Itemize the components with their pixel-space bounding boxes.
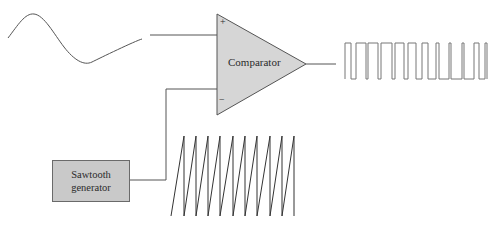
sawtooth-wave: [171, 136, 294, 216]
plus-input-label: +: [220, 16, 226, 27]
pwm-square-wave-output: [345, 43, 487, 79]
sine-wave-input-smooth: [8, 14, 142, 63]
sawtooth-generator-label-line2: generator: [71, 181, 111, 194]
sawtooth-generator-block: Sawtooth generator: [52, 160, 130, 202]
comparator-label: Comparator: [228, 56, 281, 68]
minus-input-label: −: [219, 94, 225, 105]
sawtooth-generator-label-line1: Sawtooth: [71, 168, 111, 181]
sine-wave-input: [8, 14, 142, 63]
